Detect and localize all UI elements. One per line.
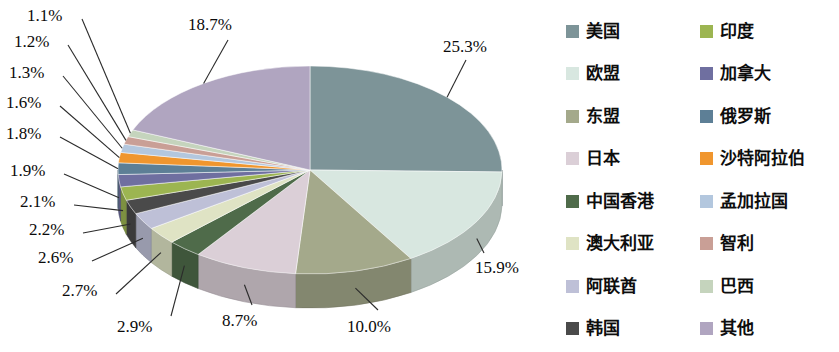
legend-item-label: 韩国 [586, 320, 620, 337]
legend-item-label: 阿联酋 [586, 278, 637, 295]
leader-line [447, 60, 466, 97]
legend-swatch-icon [566, 280, 579, 293]
legend-swatch-icon [700, 195, 713, 208]
leader-line [116, 253, 161, 294]
pct-label-1-1: 1.1% [27, 6, 62, 26]
legend-item-label: 美国 [586, 23, 620, 40]
legend-item[interactable]: 东盟 [566, 95, 700, 138]
legend-item[interactable]: 孟加拉国 [700, 180, 839, 223]
legend-swatch-icon [566, 322, 579, 335]
legend-item-label: 加拿大 [720, 65, 771, 82]
legend-swatch-icon [700, 25, 713, 38]
pie-chart: 美国 25.3%欧盟 15.9%东盟 10.0%日本 8.7%中国香港 2.9%… [0, 0, 560, 352]
legend-item-label: 智利 [720, 235, 754, 252]
pie-slice-tops: 美国 25.3%欧盟 15.9%东盟 10.0%日本 8.7%中国香港 2.9%… [118, 66, 502, 274]
legend-swatch-icon [566, 67, 579, 80]
pct-label-1-8: 1.8% [6, 124, 41, 144]
legend-item-label: 澳大利亚 [586, 235, 654, 252]
legend-item[interactable]: 日本 [566, 138, 700, 181]
legend-item-label: 欧盟 [586, 65, 620, 82]
leader-line [74, 205, 123, 211]
legend-item[interactable]: 澳大利亚 [566, 223, 700, 266]
legend-item[interactable]: 加拿大 [700, 53, 839, 96]
leader-line [64, 174, 119, 198]
legend-item-label: 俄罗斯 [720, 108, 771, 125]
legend-swatch-icon [566, 195, 579, 208]
legend-swatch-icon [700, 67, 713, 80]
leader-line [82, 19, 130, 133]
legend-item[interactable]: 印度 [700, 10, 839, 53]
legend-swatch-icon [700, 237, 713, 250]
legend-item[interactable]: 俄罗斯 [700, 95, 839, 138]
legend-swatch-icon [700, 152, 713, 165]
legend-swatch-icon [700, 110, 713, 123]
legend-item-label: 沙特阿拉伯 [720, 150, 805, 167]
legend-item-label: 东盟 [586, 108, 620, 125]
legend-item-label: 印度 [720, 23, 754, 40]
legend-item-label: 中国香港 [586, 193, 654, 210]
legend-swatch-icon [566, 152, 579, 165]
pct-label-1-9: 1.9% [10, 161, 45, 181]
pct-label-1-3: 1.3% [9, 63, 44, 83]
pct-label-25-3: 25.3% [443, 37, 487, 57]
legend-swatch-icon [566, 110, 579, 123]
legend-swatch-icon [566, 237, 579, 250]
legend-item-label: 巴西 [720, 278, 754, 295]
legend-item[interactable]: 智利 [700, 223, 839, 266]
pct-label-1-2: 1.2% [14, 32, 49, 52]
pct-label-2-7: 2.7% [62, 281, 97, 301]
pct-label-8-7: 8.7% [222, 311, 257, 331]
legend-item-label: 其他 [720, 320, 754, 337]
pct-label-1-6: 1.6% [6, 93, 41, 113]
legend-swatch-icon [700, 280, 713, 293]
legend-swatch-icon [700, 322, 713, 335]
legend-item-label: 孟加拉国 [720, 193, 788, 210]
chart-legend: 美国印度欧盟加拿大东盟俄罗斯日本沙特阿拉伯中国香港孟加拉国澳大利亚智利阿联酋巴西… [566, 10, 839, 350]
pct-label-2-9: 2.9% [117, 317, 152, 337]
leader-line [63, 76, 122, 148]
pct-label-10-0: 10.0% [347, 317, 391, 337]
pie-slice[interactable]: 美国 25.3% [310, 66, 502, 172]
pct-label-15-9: 15.9% [475, 258, 519, 278]
legend-swatch-icon [566, 25, 579, 38]
legend-item[interactable]: 韩国 [566, 308, 700, 351]
legend-item[interactable]: 巴西 [700, 265, 839, 308]
leader-line [60, 137, 118, 169]
legend-item-label: 日本 [586, 150, 620, 167]
pct-label-2-1: 2.1% [20, 192, 55, 212]
leader-line [60, 106, 119, 158]
legend-item[interactable]: 美国 [566, 10, 700, 53]
pct-label-2-6: 2.6% [38, 248, 73, 268]
legend-item[interactable]: 中国香港 [566, 180, 700, 223]
legend-item[interactable]: 其他 [700, 308, 839, 351]
legend-item[interactable]: 沙特阿拉伯 [700, 138, 839, 181]
legend-item[interactable]: 欧盟 [566, 53, 700, 96]
legend-item[interactable]: 阿联酋 [566, 265, 700, 308]
pct-label-2-2: 2.2% [29, 220, 64, 240]
pct-label-18-7: 18.7% [188, 15, 232, 35]
leader-line [92, 238, 143, 261]
